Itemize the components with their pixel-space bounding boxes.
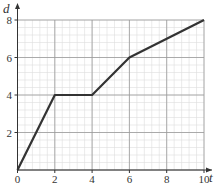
- svg-text:0: 0: [15, 173, 21, 185]
- distance-time-chart: 02468102468 t d: [0, 0, 218, 187]
- svg-text:8: 8: [164, 173, 170, 185]
- x-axis-label: t: [209, 170, 213, 185]
- svg-text:6: 6: [127, 173, 133, 185]
- svg-text:4: 4: [7, 89, 13, 101]
- svg-text:4: 4: [89, 173, 95, 185]
- tick-labels: 02468102468: [7, 14, 211, 185]
- svg-text:2: 2: [52, 173, 58, 185]
- y-axis-label: d: [3, 1, 10, 16]
- svg-text:2: 2: [7, 127, 13, 139]
- svg-text:6: 6: [7, 52, 13, 64]
